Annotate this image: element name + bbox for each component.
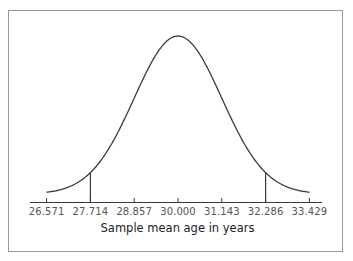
normal-curve: [47, 36, 310, 192]
x-tick-label: 26.571: [22, 206, 72, 217]
x-axis-title: Sample mean age in years: [0, 221, 353, 235]
x-tick-label: 31.143: [197, 206, 247, 217]
x-tick-label: 32.286: [241, 206, 291, 217]
x-tick-label: 33.429: [284, 206, 334, 217]
x-tick-label: 27.714: [65, 206, 115, 217]
x-tick-label: 30.000: [153, 206, 203, 217]
x-tick-label: 28.857: [109, 206, 159, 217]
x-axis-ticks: [47, 198, 310, 203]
